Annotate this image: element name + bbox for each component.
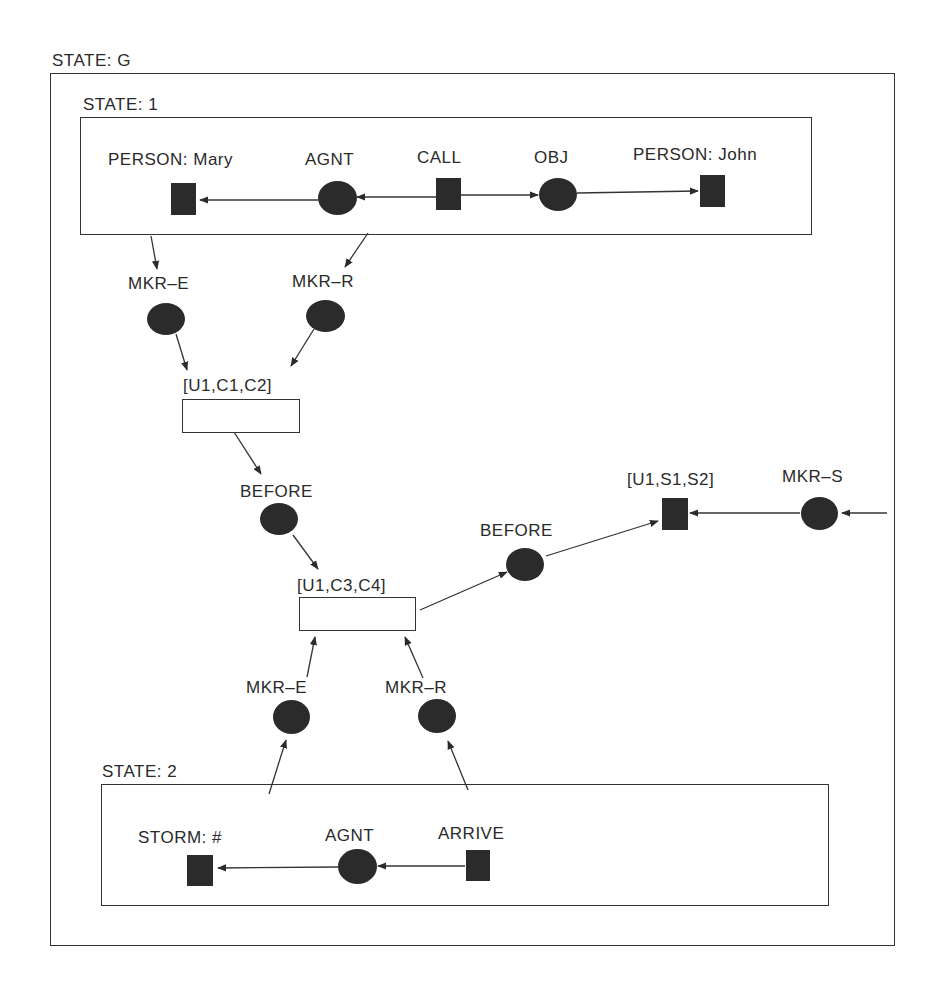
state-2-label: STATE: 2 bbox=[102, 762, 177, 782]
u1c3c4-label: [U1,C3,C4] bbox=[297, 576, 386, 596]
person-john-concept bbox=[700, 175, 725, 207]
mkr-r-top-relation bbox=[306, 300, 345, 332]
mkr-e-bottom-relation bbox=[273, 700, 310, 734]
mkr-r-bottom-relation bbox=[418, 699, 456, 733]
before-2-label: BEFORE bbox=[480, 521, 553, 541]
arrive-label: ARRIVE bbox=[438, 824, 504, 844]
u1s1s2-concept bbox=[662, 498, 688, 530]
mkr-e-top-label: MKR–E bbox=[128, 274, 189, 294]
person-mary-label: PERSON: Mary bbox=[108, 150, 233, 170]
agnt-relation-bottom bbox=[338, 849, 377, 884]
arrive-concept bbox=[466, 850, 490, 881]
state-1-label: STATE: 1 bbox=[83, 95, 158, 115]
mkr-r-bottom-label: MKR–R bbox=[385, 678, 447, 698]
obj-relation bbox=[539, 178, 577, 211]
agnt-label-bottom: AGNT bbox=[325, 826, 374, 846]
agnt-relation-top bbox=[318, 181, 357, 215]
u1c3c4-context bbox=[299, 597, 416, 631]
before-1-relation bbox=[260, 503, 298, 535]
state-g-label: STATE: G bbox=[52, 51, 131, 71]
u1c1c2-context bbox=[182, 399, 300, 433]
mkr-e-top-relation bbox=[147, 303, 185, 335]
mkr-e-bottom-label: MKR–E bbox=[246, 678, 307, 698]
u1c1c2-label: [U1,C1,C2] bbox=[183, 376, 272, 396]
mkr-r-top-label: MKR–R bbox=[292, 272, 354, 292]
before-1-label: BEFORE bbox=[240, 482, 313, 502]
u1s1s2-label: [U1,S1,S2] bbox=[627, 470, 714, 490]
agnt-label-top: AGNT bbox=[305, 150, 354, 170]
person-mary-concept bbox=[171, 183, 196, 215]
mkr-s-label: MKR–S bbox=[782, 467, 843, 487]
person-john-label: PERSON: John bbox=[633, 145, 757, 165]
conceptual-graph-diagram: STATE: G STATE: 1 PERSON: Mary AGNT CALL… bbox=[0, 0, 936, 990]
obj-label: OBJ bbox=[534, 148, 569, 168]
storm-concept bbox=[187, 855, 213, 886]
call-label: CALL bbox=[417, 148, 462, 168]
call-concept bbox=[436, 178, 461, 210]
storm-label: STORM: # bbox=[138, 828, 222, 848]
mkr-s-relation bbox=[801, 497, 838, 530]
before-2-relation bbox=[506, 548, 544, 581]
